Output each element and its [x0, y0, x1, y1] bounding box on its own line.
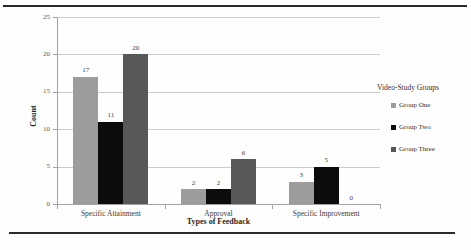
legend-swatch-icon — [391, 147, 396, 152]
bar-value-label: 20 — [121, 44, 151, 53]
bar-group-three — [231, 159, 256, 204]
bar-group-three — [123, 54, 148, 204]
legend-item-group-two: Group Two — [391, 123, 431, 131]
bottom-rule — [9, 232, 455, 234]
bar-group-two — [98, 122, 123, 204]
bar-value-label: 0 — [336, 194, 366, 203]
y-axis-title: Count — [29, 105, 38, 126]
x-tick-mark — [380, 205, 381, 209]
x-axis-line — [57, 204, 381, 205]
gridline-20 — [57, 54, 380, 55]
bar-value-label: 5 — [311, 156, 341, 165]
bar-group-one — [289, 182, 314, 204]
legend-title: Video-Study Groups — [377, 83, 469, 92]
figure-bar-chart: 0510152025171120Specific Attainment226Ap… — [0, 0, 471, 250]
y-tick-label: 5 — [28, 162, 50, 171]
bar-value-label: 17 — [71, 66, 101, 75]
legend: Video-Study Groups Group OneGroup TwoGro… — [377, 83, 469, 92]
legend-label: Group Three — [399, 145, 435, 153]
legend-label: Group Two — [399, 123, 431, 131]
bar-value-label: 3 — [286, 171, 316, 180]
bar-group-two — [314, 167, 339, 204]
y-tick-label: 15 — [28, 87, 50, 96]
legend-swatch-icon — [391, 103, 396, 108]
bar-value-label: 6 — [229, 149, 259, 158]
y-tick-label: 25 — [28, 13, 50, 22]
y-tick-label: 20 — [28, 50, 50, 59]
y-tick-label: 0 — [28, 200, 50, 209]
bar-group-one — [181, 189, 206, 204]
bar-group-two — [206, 189, 231, 204]
bar-group-one — [73, 77, 98, 204]
gridline-15 — [57, 92, 380, 93]
legend-swatch-icon — [391, 125, 396, 130]
gridline-25 — [57, 17, 380, 18]
x-axis-title: Types of Feedback — [57, 217, 380, 226]
legend-label: Group One — [399, 101, 430, 109]
legend-item-group-three: Group Three — [391, 145, 435, 153]
bar-value-label: 2 — [204, 179, 234, 188]
bar-value-label: 11 — [96, 111, 126, 120]
y-axis-line — [57, 17, 58, 204]
legend-item-group-one: Group One — [391, 101, 430, 109]
